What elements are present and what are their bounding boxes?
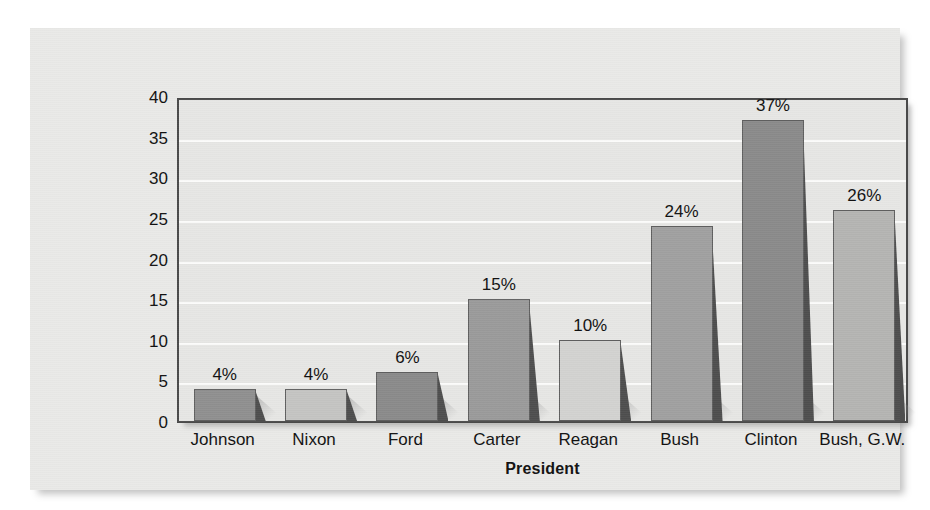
bar-body (376, 372, 438, 421)
y-axis-tick-labels: 0510152025303540 (126, 98, 168, 423)
bar-side-face (803, 120, 814, 421)
bar-body (194, 389, 256, 422)
y-axis-tick-label: 40 (126, 88, 168, 108)
bar-value-label: 26% (847, 186, 881, 206)
bar-side-face (712, 226, 723, 421)
y-axis-tick-label: 30 (126, 169, 168, 189)
y-axis-tick-label: 10 (126, 332, 168, 352)
bar[interactable]: 26% (833, 210, 895, 421)
y-axis-tick-label: 0 (126, 413, 168, 433)
bar[interactable]: 37% (742, 120, 804, 421)
bar[interactable]: 15% (468, 299, 530, 421)
bar-side-face (620, 340, 631, 421)
y-axis-tick-label: 15 (126, 291, 168, 311)
bar[interactable]: 4% (194, 389, 256, 422)
bar[interactable]: 4% (285, 389, 347, 422)
bar-side-face (529, 299, 540, 421)
x-axis-tick-label: Clinton (744, 430, 797, 450)
y-axis-tick-label: 25 (126, 210, 168, 230)
bar-body (651, 226, 713, 421)
bar-body (285, 389, 347, 422)
x-axis-tick-label: Carter (473, 430, 520, 450)
bar-body (833, 210, 895, 421)
bar-body (742, 120, 804, 421)
bar-value-label: 10% (573, 316, 607, 336)
x-axis-title: President (177, 460, 908, 478)
bar[interactable]: 24% (651, 226, 713, 421)
y-axis-tick-label: 35 (126, 129, 168, 149)
x-axis-tick-label: Ford (388, 430, 423, 450)
x-axis-tick-label: Bush, G.W. (819, 430, 905, 450)
y-axis-tick-label: 5 (126, 372, 168, 392)
x-axis-tick-label: Nixon (292, 430, 335, 450)
bar-value-label: 15% (482, 275, 516, 295)
bar-side-face (894, 210, 905, 421)
x-axis-tick-label: Johnson (191, 430, 255, 450)
bar-body (468, 299, 530, 421)
bar-body (559, 340, 621, 421)
bar[interactable]: 10% (559, 340, 621, 421)
x-axis-tick-label: Bush (660, 430, 699, 450)
x-axis-tick-labels: JohnsonNixonFordCarterReaganBushClintonB… (177, 430, 908, 458)
bar-value-label: 24% (665, 202, 699, 222)
bar[interactable]: 6% (376, 372, 438, 421)
bar-value-label: 4% (304, 365, 329, 385)
bar-value-label: 4% (212, 365, 237, 385)
y-axis-tick-label: 20 (126, 251, 168, 271)
chart-panel: Women Appointees (percentage) 0510152025… (30, 28, 900, 490)
bar-value-label: 6% (395, 348, 420, 368)
bar-series: 4%4%6%15%10%24%37%26% (179, 100, 906, 421)
bar-value-label: 37% (756, 96, 790, 116)
x-axis-tick-label: Reagan (558, 430, 618, 450)
plot-area: 4%4%6%15%10%24%37%26% (177, 98, 908, 423)
